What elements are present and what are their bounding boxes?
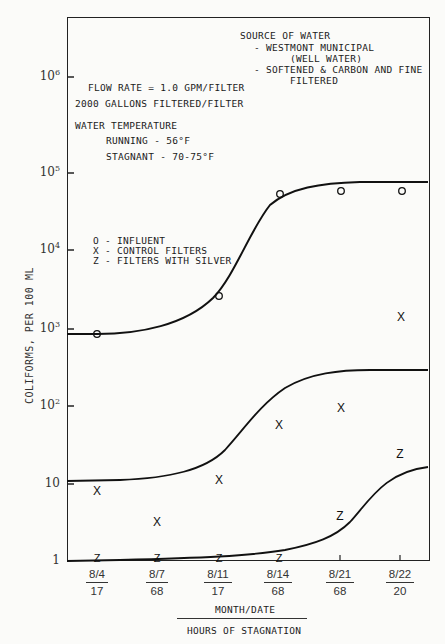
temperature-running: RUNNING - 56°F: [106, 135, 190, 146]
control-markers: X X X X X X: [93, 310, 405, 529]
y-tick-1e5: 105: [26, 164, 60, 179]
x-tick-8-7: 8/768: [137, 566, 177, 599]
source-line-4: FILTERED: [290, 75, 338, 86]
source-line-3: - SOFTENED & CARBON AND FINE: [254, 64, 423, 75]
x-tick-8-4: 8/417: [77, 566, 117, 599]
x-tick-8-11: 8/1117: [198, 566, 238, 599]
svg-text:Z: Z: [396, 447, 403, 461]
source-line-1: - WESTMONT MUNICIPAL: [254, 42, 374, 53]
svg-text:Z: Z: [336, 509, 343, 523]
x-tick-marks: [340, 555, 400, 561]
svg-text:Z: Z: [216, 552, 223, 564]
gallons-note: 2000 GALLONS FILTERED/FILTER: [75, 98, 244, 109]
x-axis-label-bottom: HOURS OF STAGNATION: [187, 625, 301, 636]
y-tick-marks: [67, 77, 74, 484]
source-line-2: (WELL WATER): [290, 53, 362, 64]
y-tick-1: 1: [26, 553, 60, 567]
control-filters-curve: [67, 370, 428, 481]
svg-text:X: X: [275, 418, 283, 432]
plot-area: X X X X X X Z Z Z Z Z Z: [0, 0, 445, 644]
silver-filters-curve: [67, 467, 428, 561]
temperature-stagnant: STAGNANT - 70-75°F: [106, 151, 214, 162]
source-title: SOURCE OF WATER: [240, 30, 330, 41]
flow-rate-note: FLOW RATE = 1.0 GPM/FILTER: [88, 82, 245, 93]
x-tick-8-22: 8/2220: [380, 566, 420, 599]
y-axis-label: COLIFORMS, PER 100 ML: [24, 267, 35, 404]
temperature-title: WATER TEMPERATURE: [75, 120, 177, 131]
svg-text:Z: Z: [94, 552, 101, 564]
x-tick-8-21: 8/2168: [320, 566, 360, 599]
svg-text:Z: Z: [154, 552, 161, 564]
x-axis-label-top: MONTH/DATE: [215, 604, 275, 615]
y-tick-1e6: 106: [26, 68, 60, 83]
svg-text:X: X: [93, 484, 101, 498]
legend-silver-filters: Z - FILTERS WITH SILVER: [93, 255, 231, 266]
silver-markers: Z Z Z Z Z Z: [94, 447, 404, 564]
svg-text:X: X: [215, 473, 223, 487]
y-tick-10: 10: [26, 476, 60, 490]
svg-text:X: X: [337, 401, 345, 415]
svg-text:Z: Z: [276, 552, 283, 564]
svg-text:X: X: [397, 310, 405, 324]
x-tick-8-14: 8/1468: [258, 566, 298, 599]
svg-text:X: X: [153, 515, 161, 529]
y-tick-1e4: 104: [26, 241, 60, 256]
x-axis-label-divider: [177, 618, 307, 619]
